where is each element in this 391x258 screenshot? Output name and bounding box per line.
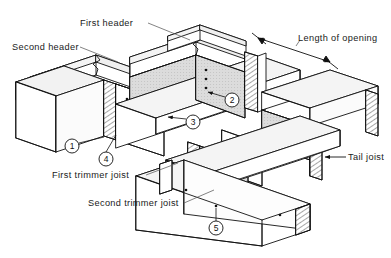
label-first-trimmer-joist: First trimmer joist bbox=[52, 170, 129, 180]
callout-2[interactable]: 2 bbox=[225, 93, 239, 107]
label-length-of-opening: Length of opening bbox=[298, 33, 378, 43]
callout-4[interactable]: 4 bbox=[99, 152, 113, 166]
first-trimmer-joist-beam bbox=[16, 66, 104, 152]
first-trimmer-endgrain bbox=[104, 80, 116, 140]
short-block-lower-left bbox=[160, 160, 172, 194]
right-upper-joist-endgrain bbox=[366, 90, 378, 136]
second-trimmer-endgrain bbox=[296, 204, 310, 235]
callout-2-number: 2 bbox=[230, 95, 235, 105]
callout-5[interactable]: 5 bbox=[209, 221, 223, 235]
callout-3-number: 3 bbox=[191, 117, 196, 127]
callout-3[interactable]: 3 bbox=[186, 115, 200, 129]
label-first-header: First header bbox=[80, 18, 133, 28]
label-second-header: Second header bbox=[12, 42, 79, 52]
label-second-trimmer-joist: Second trimmer joist bbox=[88, 198, 179, 208]
diagram-canvas: 1 2 3 4 5 First header Second header Len… bbox=[0, 0, 391, 258]
callout-5-number: 5 bbox=[214, 223, 219, 233]
callout-4-number: 4 bbox=[104, 154, 109, 164]
callout-1-number: 1 bbox=[70, 141, 75, 151]
callout-1[interactable]: 1 bbox=[65, 139, 79, 153]
label-tail-joist: Tail joist bbox=[348, 152, 384, 162]
